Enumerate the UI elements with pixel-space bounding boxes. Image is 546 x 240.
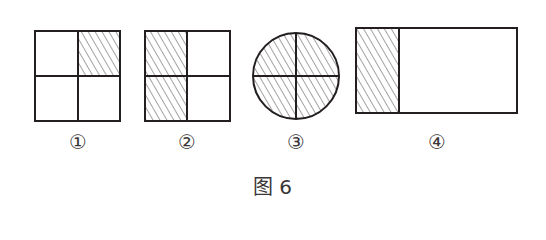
shaded-strip xyxy=(356,28,399,113)
figure-3-label: ③ xyxy=(276,132,316,152)
figure-caption: 图 6 xyxy=(253,171,292,200)
figure-3-circle xyxy=(250,30,345,125)
figure-4-rectangle xyxy=(356,28,517,113)
shaded-circle xyxy=(250,30,345,125)
figure-1-label: ① xyxy=(58,132,98,152)
figure-2-label: ② xyxy=(167,132,207,152)
shaded-quarter xyxy=(78,31,120,76)
figure-2-square xyxy=(145,31,230,121)
figure-4-label: ④ xyxy=(417,132,457,152)
figure-1-square xyxy=(35,31,120,121)
